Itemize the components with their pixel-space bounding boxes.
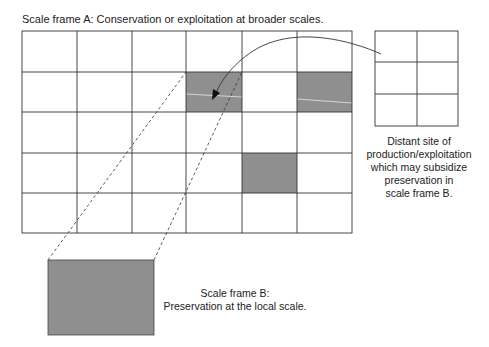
distant-site-caption: Distant site of production/exploitation … xyxy=(364,135,474,200)
caption-line: preservation in xyxy=(364,174,474,187)
shaded-cell xyxy=(297,72,352,112)
frame-b-caption: Scale frame B: Preservation at the local… xyxy=(160,287,310,313)
caption-line: production/exploitation xyxy=(364,148,474,161)
shaded-cells xyxy=(186,72,352,193)
grid-a xyxy=(22,31,352,233)
frame-b-box xyxy=(48,260,154,335)
caption-line: Distant site of xyxy=(364,135,474,148)
shaded-cell xyxy=(242,153,297,193)
caption-line: scale frame B. xyxy=(364,187,474,200)
caption-line: Scale frame B: xyxy=(160,287,310,300)
caption-line: Preservation at the local scale. xyxy=(160,300,310,313)
caption-line: which may subsidize xyxy=(364,161,474,174)
distant-site-grid xyxy=(375,31,458,126)
